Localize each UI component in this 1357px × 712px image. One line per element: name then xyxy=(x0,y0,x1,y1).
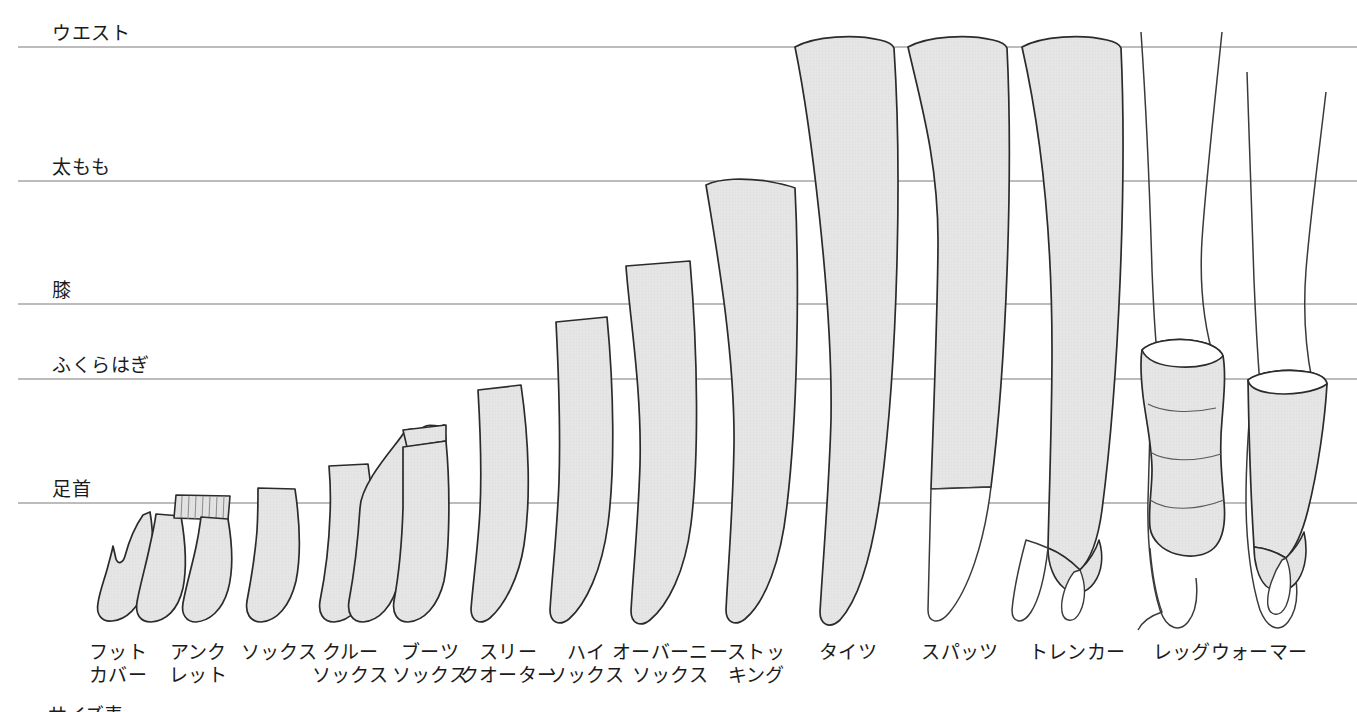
bare-leg-b-back xyxy=(1247,72,1260,386)
bare-leg-a-front xyxy=(1201,32,1222,362)
garment-tights xyxy=(795,37,898,625)
bare-leg-b-front xyxy=(1305,92,1326,380)
item-label-socks: ソックス xyxy=(241,641,317,664)
leg-warmer-b-cuff xyxy=(1248,370,1327,394)
item-label-line2: レット xyxy=(169,664,227,687)
item-label-foot-cover: フット カバー xyxy=(89,641,147,687)
item-label-crew-socks: クルー ソックス xyxy=(312,641,388,687)
item-label-line1: ブーツ xyxy=(401,642,459,663)
item-label-line1: クルー xyxy=(322,642,379,663)
legwear-illustration xyxy=(0,0,1357,712)
item-label-three-quarter: スリー クオーター xyxy=(460,641,557,687)
item-label-line2: クオーター xyxy=(460,664,557,687)
bare-leg-a-back xyxy=(1141,32,1159,372)
leg-warmer-b xyxy=(1246,72,1327,628)
reference-label-calf: ふくらはぎ xyxy=(52,356,150,375)
garment-trenker xyxy=(1012,37,1123,621)
cut-off-bottom-text: サイズ表 xyxy=(48,700,123,712)
leg-warmer-a xyxy=(1138,32,1225,630)
item-label-line1: ソックス xyxy=(241,642,317,663)
garment-three-quarter xyxy=(471,385,528,622)
reference-label-waist: ウエスト xyxy=(52,24,130,43)
garment-boots-socks xyxy=(349,425,449,622)
item-label-line2: ソックス xyxy=(392,664,468,687)
item-label-line2: ソックス xyxy=(312,664,388,687)
item-label-boots-socks: ブーツ ソックス xyxy=(392,641,468,687)
legwear-length-chart: ウエスト 太もも 膝 ふくらはぎ 足首 フット カバー アンク レット ソックス… xyxy=(0,0,1357,712)
item-label-line1: フット xyxy=(89,642,147,663)
item-label-line1: オーバーニー xyxy=(612,642,728,663)
item-label-line1: スリー xyxy=(479,642,537,663)
item-label-line1: アンク xyxy=(170,642,227,663)
item-label-line2: キング xyxy=(727,664,785,687)
item-label-line1: スパッツ xyxy=(921,642,998,663)
item-label-line1: ストッ xyxy=(727,642,785,663)
reference-label-knee: 膝 xyxy=(52,281,72,300)
garment-spats xyxy=(908,37,1009,621)
garment-high-socks xyxy=(550,317,613,623)
bare-foot-trenker xyxy=(1012,540,1048,621)
item-label-over-knee: オーバーニー ソックス xyxy=(612,641,728,687)
item-label-line1: タイツ xyxy=(819,642,877,663)
item-label-line2: ソックス xyxy=(612,664,728,687)
reference-label-ankle: 足首 xyxy=(52,480,91,499)
bare-foot-spats xyxy=(928,487,991,621)
item-label-line1: ハイ xyxy=(567,642,606,663)
item-label-leg-warmer: レッグウォーマー xyxy=(1153,641,1307,664)
item-label-stocking: ストッ キング xyxy=(727,641,785,687)
garment-over-knee-socks xyxy=(626,261,697,624)
garment-socks xyxy=(247,488,300,622)
item-label-line2: カバー xyxy=(89,664,147,687)
item-label-line1: トレンカー xyxy=(1029,642,1126,663)
item-label-spats: スパッツ xyxy=(921,641,998,664)
item-label-anklet: アンク レット xyxy=(169,641,227,687)
item-label-line1: レッグウォーマー xyxy=(1153,642,1307,663)
item-label-tights: タイツ xyxy=(819,641,877,664)
reference-label-thigh: 太もも xyxy=(52,158,111,177)
garment-stocking xyxy=(706,179,797,623)
item-label-trenker: トレンカー xyxy=(1029,641,1126,664)
